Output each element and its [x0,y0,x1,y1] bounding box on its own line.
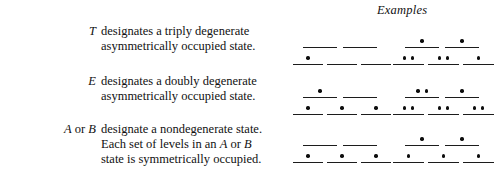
level-line [327,114,357,115]
level-tier-upper [393,132,491,146]
energy-level-bar [303,133,337,146]
electron-dot-group [303,87,337,96]
level-line [303,145,337,146]
energy-level-bar [343,35,377,48]
energy-level-bar [327,102,357,115]
energy-level-bar [393,150,424,163]
electron-dot-icon [340,106,343,109]
electron-dot-icon [374,154,377,157]
electron-dot-group [327,104,357,113]
electron-dot-icon [425,89,428,92]
energy-level-bar [293,150,323,163]
level-line [293,162,323,163]
electron-dot-group [428,54,459,63]
level-line [327,162,357,163]
electron-dot-group [393,152,424,161]
electron-dot-group [445,37,479,46]
level-tier-lower [393,101,491,115]
electron-dot-group [361,104,391,113]
electron-dot-group [327,152,357,161]
description-ab: designate a nondegenerate state.Each set… [101,122,291,168]
level-line [463,162,494,163]
electron-dot-icon [446,56,449,59]
level-line [428,64,459,65]
electron-dot-group [393,54,424,63]
electron-dot-group [405,87,439,96]
electron-dot-group [361,152,391,161]
electron-dot-icon [416,89,419,92]
level-tier-lower [393,149,491,163]
energy-level-bar [361,102,391,115]
electron-dot-icon [411,106,414,109]
energy-level-bar [293,102,323,115]
level-line [303,97,337,98]
level-tier-upper [293,132,389,146]
electron-dot-group [405,37,439,46]
electron-dot-icon [306,106,309,109]
energy-level-bar [361,150,391,163]
energy-level-bar [393,102,424,115]
level-line [361,114,391,115]
level-line [405,145,439,146]
level-line [445,145,479,146]
energy-level-bar [343,85,377,98]
energy-level-bar [327,52,357,65]
energy-level-bar [361,52,391,65]
inline-state-symbol: A [220,137,228,151]
legend-row-ab: A or B designate a nondegenerate state.E… [0,122,493,178]
energy-level-bar [463,52,494,65]
level-line [428,162,459,163]
electron-dot-group [445,135,479,144]
description-line: designates a triply degenerate [101,24,291,39]
energy-level-bar [463,102,494,115]
energy-level-bar [445,133,479,146]
electron-dot-icon [306,154,309,157]
level-line [361,162,391,163]
level-line [293,64,323,65]
legend-row-t: T designates a triply degenerateasymmetr… [0,24,493,66]
level-line [463,64,494,65]
energy-level-bar [445,35,479,48]
electron-dot-icon [420,39,423,42]
electron-dot-icon [438,106,441,109]
energy-level-bar [428,150,459,163]
symbol-label-t: T [10,24,96,39]
symbol-token: B [88,122,96,136]
level-line [393,64,424,65]
energy-level-bar [405,85,439,98]
energy-level-bar [327,150,357,163]
electron-dot-group [445,87,479,96]
energy-level-bar [405,35,439,48]
level-line [303,47,337,48]
energy-level-bar [463,150,494,163]
description-line: designate a nondegenerate state. [101,122,291,137]
symbol-token: or [72,122,89,136]
electron-dot-group [293,152,323,161]
electron-dot-group [393,104,424,113]
electron-dot-group [405,135,439,144]
level-tier-upper [393,84,491,98]
level-line [343,97,377,98]
level-line [445,97,479,98]
electron-dot-icon [411,56,414,59]
level-line [293,114,323,115]
electron-dot-icon [420,137,423,140]
electron-dot-group [428,152,459,161]
electron-dot-icon [460,89,463,92]
electron-dot-icon [318,89,321,92]
level-tier-upper [293,84,389,98]
level-line [343,145,377,146]
symbol-token: E [88,74,96,88]
electron-dot-icon [438,56,441,59]
level-line [393,114,424,115]
electron-dot-icon [477,56,480,59]
level-line [343,47,377,48]
level-tier-lower [293,101,389,115]
electron-dot-icon [374,106,377,109]
energy-level-bar [393,52,424,65]
electron-dot-group [293,104,323,113]
examples-heading: Examples [377,3,427,18]
level-tier-lower [293,51,389,65]
level-line [393,162,424,163]
